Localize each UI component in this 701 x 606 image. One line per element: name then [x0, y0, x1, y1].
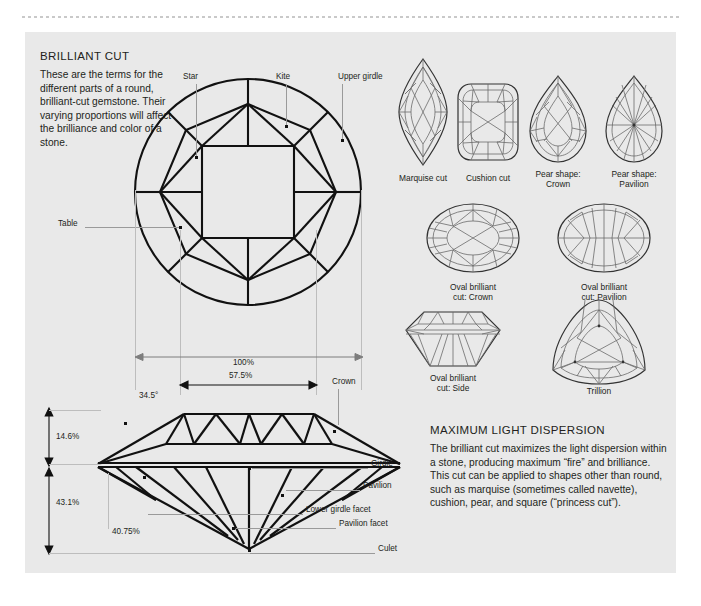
leader-dot-kite	[285, 125, 288, 128]
pavilion-depth-dimension-arrow	[44, 468, 54, 554]
leader-dot-star	[195, 156, 198, 159]
leader-dot-upper-girdle	[341, 139, 344, 142]
dimension-diameter: 100%	[233, 358, 254, 367]
facet-dot-lower-girdle	[143, 476, 146, 479]
gem-cushion-diagram	[457, 83, 519, 161]
facet-dot-crown-left	[124, 422, 127, 425]
leader-dot-table	[179, 226, 182, 229]
dispersion-heading: MAXIMUM LIGHT DISPERSION	[430, 424, 605, 436]
gem-oval-side-diagram	[404, 310, 502, 368]
facet-dot-pavilion-right	[281, 494, 284, 497]
leader-lower-girdle-facet	[148, 514, 303, 515]
gem-pear-pavilion-diagram	[604, 75, 664, 163]
label-culet: Culet	[378, 544, 397, 553]
guide-pavilion-angle	[108, 473, 109, 529]
dimension-pavilion-angle: 40.75%	[112, 527, 140, 536]
gem-caption-trillion: Trillion	[544, 386, 654, 396]
brilliant-cut-heading: BRILLIANT CUT	[40, 50, 129, 62]
dispersion-description: The brilliant cut maximizes the light di…	[430, 442, 667, 510]
dimension-crown-height: 14.6%	[56, 432, 79, 441]
leader-culet	[250, 553, 375, 554]
gem-oval-pavilion-diagram	[556, 202, 652, 274]
dimension-crown-angle: 34.5°	[139, 391, 158, 400]
round-brilliant-top-view-diagram	[132, 76, 364, 308]
label-star: Star	[183, 72, 198, 81]
facet-dot-pavilion-facet	[232, 527, 235, 530]
leader-star	[196, 84, 197, 157]
leader-girdle	[252, 468, 368, 469]
label-table: Table	[58, 219, 78, 228]
crown-height-dimension-arrow	[44, 408, 54, 466]
table-width-dimension-arrow	[180, 380, 317, 390]
guide-girdle-level-left	[49, 464, 101, 465]
label-pavilion: Pavilion	[363, 481, 392, 490]
guide-table-right	[316, 230, 317, 395]
leader-table	[85, 227, 181, 228]
label-crown: Crown	[332, 377, 356, 386]
gem-caption-oval-crown-line2: cut: Crown	[418, 292, 528, 302]
label-lower-girdle-facet: Lower girdle facet	[306, 505, 371, 514]
label-girdle: Girdle	[371, 459, 393, 468]
gem-caption-oval-side-line2: cut: Side	[398, 383, 508, 393]
gem-marquise-diagram	[395, 58, 451, 166]
facet-dot-culet	[248, 549, 251, 552]
label-pavilion-facet: Pavilion facet	[339, 519, 388, 528]
leader-kite	[286, 84, 287, 126]
dimension-pavilion-depth: 43.1%	[56, 498, 79, 507]
gem-trillion-diagram	[551, 298, 647, 386]
gem-caption-pear-pavilion-line1: Pear shape:	[579, 169, 689, 179]
gem-caption-pear-pavilion-line2: Pavilion	[579, 179, 689, 189]
guide-table-left	[180, 230, 181, 395]
facet-dot-girdle	[248, 467, 251, 470]
guide-crown-top	[49, 410, 101, 411]
label-upper-girdle: Upper girdle	[338, 72, 383, 81]
dimension-table-width: 57.5%	[229, 371, 252, 380]
round-brilliant-side-view-diagram	[96, 404, 402, 554]
leader-crown	[338, 389, 339, 425]
leader-pavilion	[286, 490, 360, 491]
facet-dot-crown-right	[333, 430, 336, 433]
leader-upper-girdle	[342, 84, 343, 140]
gem-caption-oval-pavilion-line1: Oval brilliant	[549, 282, 659, 292]
page-root: BRILLIANT CUT These are the terms for th…	[0, 0, 701, 606]
label-kite: Kite	[276, 72, 290, 81]
dotted-rule-divider	[22, 16, 680, 18]
gem-pear-crown-diagram	[528, 75, 588, 163]
gem-caption-oval-side-line1: Oval brilliant	[398, 373, 508, 383]
gem-caption-oval-crown-line1: Oval brilliant	[418, 282, 528, 292]
leader-pavilion-facet	[236, 528, 336, 529]
gem-oval-crown-diagram	[425, 202, 521, 274]
guide-culet-level	[49, 553, 254, 554]
